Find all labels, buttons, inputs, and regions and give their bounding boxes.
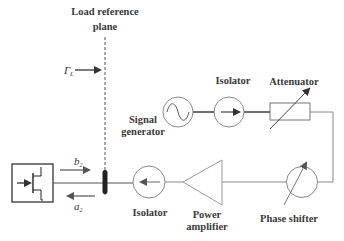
isolator-bottom-label: Isolator xyxy=(133,207,168,218)
power-amplifier: Power amplifier xyxy=(183,160,228,232)
signal-generator-label-1: Signal xyxy=(129,114,157,125)
amplifier-triangle-icon xyxy=(183,160,222,205)
a2-label: a2 xyxy=(74,200,83,213)
reference-plane-title: Load reference plane xyxy=(71,6,139,32)
signal-generator-label-2: generator xyxy=(121,126,165,137)
title-line-1: Load reference xyxy=(71,6,139,17)
power-amplifier-label-2: amplifier xyxy=(186,221,228,232)
load-pull-diagram: Load reference plane ΓL b2 a2 Isolator xyxy=(0,0,344,241)
isolator-bottom: Isolator xyxy=(133,166,168,218)
power-amplifier-label-1: Power xyxy=(193,209,222,220)
isolator-top-label: Isolator xyxy=(216,75,251,86)
isolator-top: Isolator xyxy=(214,75,251,127)
attenuator-label: Attenuator xyxy=(269,76,319,87)
attenuator: Attenuator xyxy=(269,76,319,129)
signal-generator: Signal generator xyxy=(121,97,193,137)
a2-wave-indicator: a2 xyxy=(68,196,95,213)
b2-wave-indicator: b2 xyxy=(60,155,89,170)
gamma-load-indicator: ΓL xyxy=(63,64,100,77)
phase-shifter: Phase shifter xyxy=(260,163,318,224)
transistor-dut xyxy=(12,164,53,202)
reference-plane-marker xyxy=(103,170,108,194)
title-line-2: plane xyxy=(93,21,118,32)
b2-label: b2 xyxy=(74,155,83,168)
gamma-label: ΓL xyxy=(63,64,74,77)
phase-shifter-label: Phase shifter xyxy=(260,213,318,224)
